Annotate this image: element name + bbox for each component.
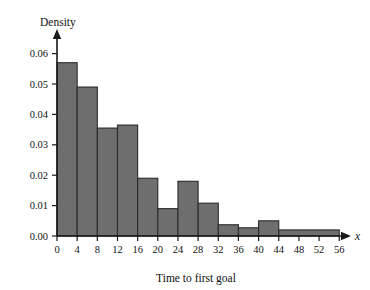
x-tick-label: 32 (213, 244, 224, 255)
histogram-bar (178, 181, 198, 236)
y-tick-label: 0.04 (30, 109, 49, 120)
histogram-plot: 0.000.010.020.030.040.050.06 04812162024… (0, 0, 370, 290)
histogram-bar (57, 63, 77, 236)
histogram-bar (279, 230, 339, 236)
x-axis-ticks: 048121620242832364044485256 (54, 236, 344, 255)
histogram-bar (97, 128, 117, 236)
histogram-bar (158, 209, 178, 236)
y-tick-label: 0.02 (30, 170, 48, 181)
histogram-bar (218, 225, 238, 236)
histogram-bar (259, 221, 279, 236)
x-tick-label: 4 (75, 244, 81, 255)
x-tick-label: 16 (132, 244, 143, 255)
y-axis-label: Density (40, 16, 76, 29)
x-tick-label: 40 (253, 244, 264, 255)
x-tick-label: 44 (274, 244, 285, 255)
histogram-bar (117, 125, 137, 236)
histogram-bar (198, 203, 218, 236)
y-axis-arrow-icon (53, 29, 61, 39)
x-tick-label: 56 (334, 244, 345, 255)
x-tick-label: 0 (54, 244, 59, 255)
y-tick-label: 0.05 (30, 79, 48, 90)
x-axis-arrow-icon (341, 232, 351, 240)
y-axis-ticks: 0.000.010.020.030.040.050.06 (30, 48, 57, 241)
x-tick-label: 36 (233, 244, 244, 255)
y-tick-label: 0.00 (30, 231, 48, 242)
y-tick-label: 0.06 (30, 48, 48, 59)
histogram-figure: 0.000.010.020.030.040.050.06 04812162024… (0, 0, 370, 290)
y-tick-label: 0.03 (30, 139, 48, 150)
x-tick-label: 12 (112, 244, 123, 255)
x-tick-label: 20 (153, 244, 164, 255)
x-axis-variable-label: x (354, 230, 361, 242)
x-tick-label: 8 (95, 244, 100, 255)
x-tick-label: 24 (173, 244, 184, 255)
histogram-bar (138, 178, 158, 236)
x-tick-label: 48 (294, 244, 305, 255)
x-tick-label: 28 (193, 244, 204, 255)
x-axis-label: Time to first goal (156, 272, 236, 285)
x-tick-label: 52 (314, 244, 325, 255)
histogram-bar (238, 228, 258, 236)
y-tick-label: 0.01 (30, 200, 48, 211)
histogram-bar (77, 87, 97, 236)
histogram-bars (57, 63, 339, 236)
